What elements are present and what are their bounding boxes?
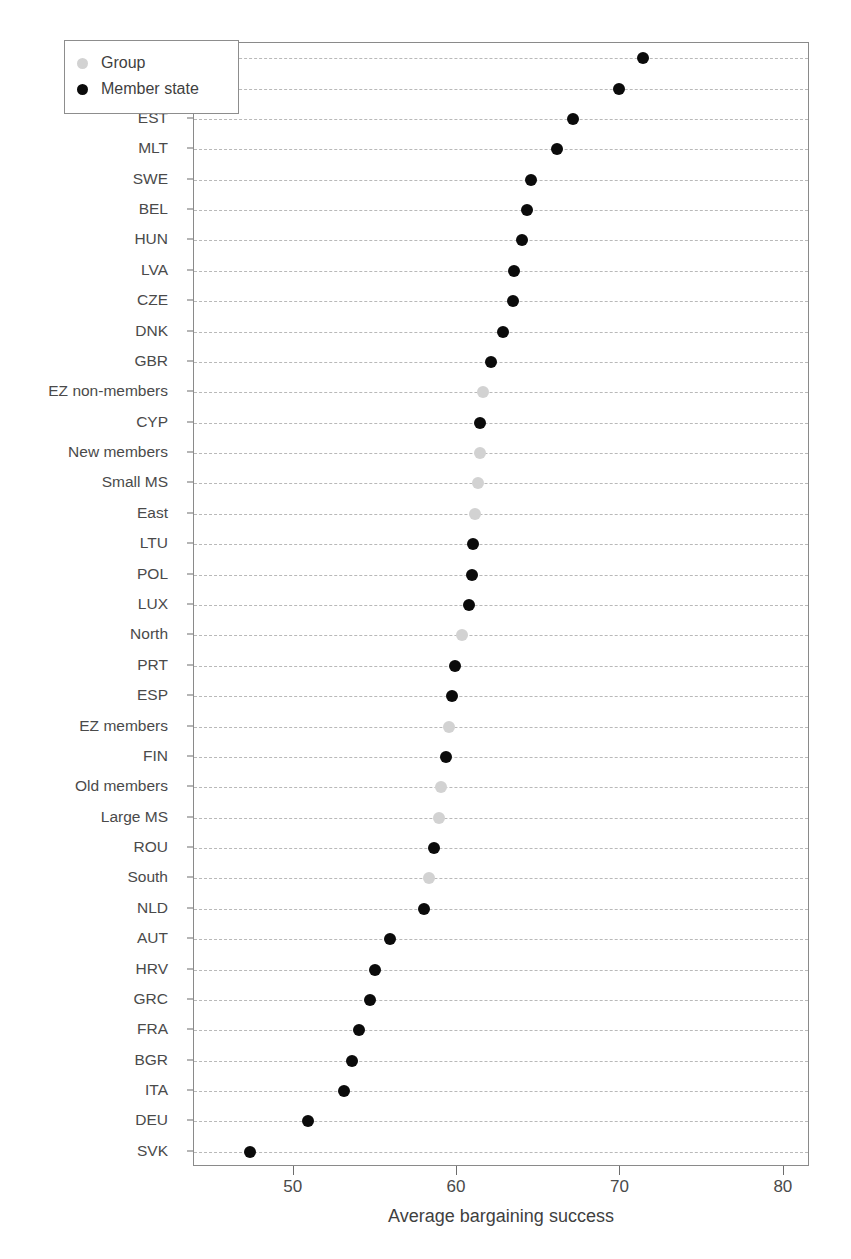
data-point — [384, 933, 396, 945]
gridline — [194, 696, 808, 697]
y-axis-tick-label: GRC — [134, 991, 168, 1007]
y-axis-tick-label: BGR — [134, 1052, 168, 1068]
gridline — [194, 666, 808, 667]
x-axis-tick-label: 50 — [283, 1177, 302, 1197]
y-axis-tick-label: GBR — [134, 353, 168, 369]
gridline — [194, 1000, 808, 1001]
gridline — [194, 727, 808, 728]
data-point — [435, 781, 447, 793]
gridline — [194, 58, 808, 59]
y-axis-tick-label: DNK — [135, 323, 168, 339]
gridline — [194, 757, 808, 758]
y-axis-tick-label: Small MS — [102, 475, 168, 491]
data-point — [474, 417, 486, 429]
gridline — [194, 210, 808, 211]
gridline — [194, 362, 808, 363]
gridline — [194, 1121, 808, 1122]
y-axis-tick-label: New members — [68, 444, 168, 460]
data-point — [567, 113, 579, 125]
y-axis-tick-label: ESP — [137, 687, 168, 703]
y-axis-tick-label: LUX — [138, 596, 168, 612]
gridline — [194, 301, 808, 302]
data-point — [497, 326, 509, 338]
legend-entry: Member state — [77, 76, 226, 102]
data-point — [551, 143, 563, 155]
gridline — [194, 89, 808, 90]
gridline — [194, 605, 808, 606]
data-point — [446, 690, 458, 702]
x-axis-tick-label: 60 — [447, 1177, 466, 1197]
data-point — [516, 234, 528, 246]
y-axis-tick-label: CZE — [137, 292, 168, 308]
legend-entry: Group — [77, 50, 226, 76]
y-axis-tick-label: PRT — [137, 657, 168, 673]
gridline — [194, 544, 808, 545]
data-point — [508, 265, 520, 277]
y-axis-tick-label: East — [137, 505, 168, 521]
data-point — [428, 842, 440, 854]
data-point — [466, 569, 478, 581]
legend-marker-circle-icon — [77, 58, 88, 69]
data-point — [449, 660, 461, 672]
plot-area — [193, 42, 809, 1166]
gridline — [194, 240, 808, 241]
gridline — [194, 1091, 808, 1092]
data-point — [346, 1055, 358, 1067]
y-axis-tick-label: North — [130, 627, 168, 643]
data-point — [353, 1024, 365, 1036]
x-axis-title: Average bargaining success — [193, 1206, 809, 1227]
legend: GroupMember state — [64, 40, 239, 114]
data-point — [637, 52, 649, 64]
clipped-top-caption — [0, 0, 851, 10]
y-axis-tick-label: CYP — [136, 414, 168, 430]
data-point — [440, 751, 452, 763]
y-axis-tick-label: ROU — [134, 839, 168, 855]
data-point — [485, 356, 497, 368]
y-axis-tick-label: South — [127, 870, 168, 886]
data-point — [302, 1115, 314, 1127]
gridline — [194, 423, 808, 424]
y-axis-tick-label: EZ members — [79, 718, 168, 734]
gridline — [194, 1030, 808, 1031]
data-point — [423, 872, 435, 884]
y-axis-tick-label: AUT — [137, 930, 168, 946]
x-axis-tick-label: 80 — [773, 1177, 792, 1197]
dot-plot-figure: SVNIRLESTMLTSWEBELHUNLVACZEDNKGBREZ non-… — [0, 0, 851, 1259]
gridline — [194, 1152, 808, 1153]
data-point — [338, 1085, 350, 1097]
gridline — [194, 818, 808, 819]
data-point — [463, 599, 475, 611]
data-point — [244, 1146, 256, 1158]
data-point — [418, 903, 430, 915]
legend-label: Group — [101, 54, 145, 72]
gridline — [194, 514, 808, 515]
y-axis-tick-label: LTU — [140, 535, 168, 551]
gridline — [194, 119, 808, 120]
y-axis-tick-label: BEL — [139, 201, 168, 217]
data-point — [443, 721, 455, 733]
data-point — [474, 447, 486, 459]
y-axis-tick-label: POL — [137, 566, 168, 582]
y-axis-tick-label: HRV — [136, 961, 168, 977]
data-point — [369, 964, 381, 976]
y-axis-tick-label: FIN — [143, 748, 168, 764]
y-axis-tick-label: HUN — [134, 232, 168, 248]
gridline — [194, 848, 808, 849]
data-point — [364, 994, 376, 1006]
x-axis-tick — [456, 1166, 457, 1175]
y-axis-tick-label: Large MS — [101, 809, 168, 825]
gridline — [194, 1061, 808, 1062]
y-axis-tick-label: ITA — [145, 1082, 168, 1098]
x-axis-tick — [293, 1166, 294, 1175]
gridline — [194, 392, 808, 393]
y-axis: SVNIRLESTMLTSWEBELHUNLVACZEDNKGBREZ non-… — [0, 42, 184, 1166]
gridline — [194, 787, 808, 788]
x-axis-tick — [619, 1166, 620, 1175]
x-axis-tick — [783, 1166, 784, 1175]
gridline — [194, 635, 808, 636]
y-axis-tick-label: FRA — [137, 1022, 168, 1038]
y-axis-tick-label: EZ non-members — [48, 384, 168, 400]
gridline — [194, 909, 808, 910]
gridline — [194, 453, 808, 454]
y-axis-tick-label: NLD — [137, 900, 168, 916]
